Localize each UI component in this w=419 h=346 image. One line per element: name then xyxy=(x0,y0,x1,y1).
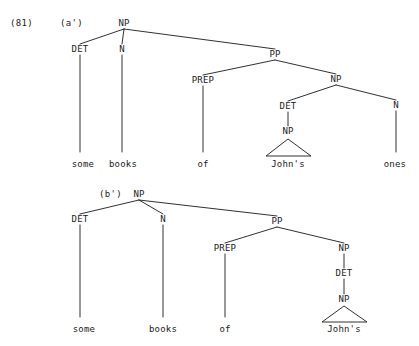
terminal-johns: John's xyxy=(271,159,305,169)
tree-b-prime: (b')NPDETNPPPREPNPDETNPsomebooksofJohn's xyxy=(72,189,367,334)
edge-pp-np xyxy=(275,60,336,74)
terminal-books: books xyxy=(109,159,137,169)
node-np-possessor: NP xyxy=(338,294,350,304)
terminal-books: books xyxy=(149,324,177,334)
node-prep: PREP xyxy=(214,243,237,253)
node-prep: PREP xyxy=(192,75,215,85)
edge-np-det2 xyxy=(288,85,336,101)
node-det: DET xyxy=(72,214,89,224)
triangle-johns xyxy=(322,306,367,322)
terminal-some: some xyxy=(72,159,94,169)
edge-np-n2 xyxy=(336,85,396,100)
node-det-possessive: DET xyxy=(336,268,353,278)
edge-pp-prep xyxy=(203,60,275,75)
node-n: N xyxy=(119,44,125,54)
syntax-tree-figure: (81)(a')NPDETNPPPREPNPDETNPNsomebooksofJ… xyxy=(0,0,419,346)
edge-np-pp xyxy=(124,29,275,49)
node-np-root: NP xyxy=(118,18,130,28)
tree-a-prime: (81)(a')NPDETNPPPREPNPDETNPNsomebooksofJ… xyxy=(10,18,406,169)
edge-pp-prep xyxy=(225,227,277,243)
node-det-possessive: DET xyxy=(280,101,297,111)
edge-np-n xyxy=(122,29,124,44)
terminal-of: of xyxy=(219,324,230,334)
node-np-possessor: NP xyxy=(282,126,294,136)
edge-np-det xyxy=(80,200,139,214)
terminal-of: of xyxy=(197,159,208,169)
example-number: (81) xyxy=(10,18,33,28)
tree-label: (b') xyxy=(99,189,122,199)
node-det: DET xyxy=(72,44,89,54)
node-n: N xyxy=(160,214,166,224)
edge-pp-np xyxy=(277,227,344,243)
tree-label: (a') xyxy=(60,18,83,28)
triangle-johns xyxy=(266,139,311,156)
node-pp: PP xyxy=(269,49,281,59)
terminal-some: some xyxy=(73,324,95,334)
node-np-object: NP xyxy=(330,74,342,84)
terminal-ones: ones xyxy=(384,159,406,169)
edge-np-det xyxy=(80,29,124,44)
node-pp: PP xyxy=(271,216,283,226)
terminal-johns: John's xyxy=(327,324,361,334)
node-n-ones: N xyxy=(393,100,399,110)
node-np-object: NP xyxy=(338,243,350,253)
node-np-root: NP xyxy=(133,189,145,199)
